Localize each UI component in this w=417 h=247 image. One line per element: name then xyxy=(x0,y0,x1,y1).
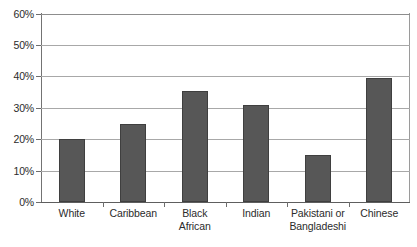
x-label-white-line1: White xyxy=(59,207,85,219)
y-tick-label-10: 10% xyxy=(0,166,34,176)
x-label-indian: Indian xyxy=(226,207,288,220)
x-label-pakistani-bangladeshi-line1: Pakistani or xyxy=(291,207,345,219)
bar-slot-caribbean xyxy=(103,14,165,202)
bar-slot-indian xyxy=(226,14,288,202)
x-label-white: White xyxy=(41,207,103,220)
x-label-pakistani-bangladeshi-line2: Bangladeshi xyxy=(287,220,349,233)
x-label-black-african-line2: African xyxy=(164,220,226,233)
x-label-black-african: Black African xyxy=(164,207,226,233)
x-label-chinese-line1: Chinese xyxy=(360,207,398,219)
bar-chinese xyxy=(366,78,392,202)
y-axis-labels: 60% 50% 40% 30% 20% 10% 0% xyxy=(0,0,34,210)
bar-indian xyxy=(243,105,269,202)
x-label-pakistani-bangladeshi: Pakistani or Bangladeshi xyxy=(287,207,349,233)
x-axis-labels: White Caribbean Black African Indian Pak… xyxy=(41,207,410,247)
y-tick-label-50: 50% xyxy=(0,40,34,50)
x-label-black-african-line1: Black xyxy=(182,207,207,219)
y-tick-label-60: 60% xyxy=(0,9,34,19)
y-tick-label-0: 0% xyxy=(0,197,34,207)
x-label-caribbean-line1: Caribbean xyxy=(109,207,157,219)
y-tick-label-40: 40% xyxy=(0,71,34,81)
bar-slot-black-african xyxy=(164,14,226,202)
x-label-indian-line1: Indian xyxy=(242,207,270,219)
bar-slot-white xyxy=(41,14,103,202)
y-tick-label-20: 20% xyxy=(0,134,34,144)
bar-caribbean xyxy=(120,124,146,202)
bar-slot-chinese xyxy=(349,14,411,202)
bar-white xyxy=(59,139,85,202)
bar-chart: 60% 50% 40% 30% 20% 10% 0% xyxy=(0,0,417,247)
x-label-caribbean: Caribbean xyxy=(103,207,165,220)
bar-series xyxy=(41,14,410,202)
bar-black-african xyxy=(182,91,208,202)
bar-slot-pakistani-bangladeshi xyxy=(287,14,349,202)
x-label-chinese: Chinese xyxy=(349,207,411,220)
y-tick-label-30: 30% xyxy=(0,103,34,113)
bar-pakistani-bangladeshi xyxy=(305,155,331,202)
